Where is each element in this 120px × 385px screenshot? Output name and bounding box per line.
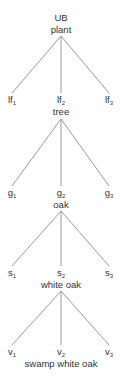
category-label-oak: oak — [53, 199, 68, 210]
node-s2: s2 — [57, 267, 65, 278]
edge-whiteoak-v3 — [61, 291, 109, 345]
root-label-ub: UB — [54, 12, 67, 23]
category-label-swamp-white-oak: swamp white oak — [25, 358, 98, 369]
root-label-plant: plant — [51, 24, 72, 35]
edge-oak-s1 — [12, 211, 61, 266]
category-label-tree: tree — [53, 106, 69, 117]
edge-plant-lf3 — [61, 36, 109, 93]
node-g3: g3 — [105, 187, 114, 198]
node-g2: g2 — [57, 187, 66, 198]
node-g1: g1 — [8, 187, 17, 198]
edge-tree-g3 — [61, 119, 109, 186]
node-v3: v3 — [105, 346, 113, 357]
node-lf2: lf2 — [57, 94, 65, 105]
edge-oak-s3 — [61, 211, 109, 266]
node-lf1: lf1 — [8, 94, 16, 105]
edge-tree-g1 — [12, 119, 61, 186]
edge-whiteoak-v1 — [12, 291, 61, 345]
edge-plant-lf1 — [12, 36, 61, 93]
category-label-white-oak: white oak — [41, 279, 81, 290]
node-s1: s1 — [8, 267, 16, 278]
node-v2: v2 — [57, 346, 65, 357]
node-v1: v1 — [8, 346, 16, 357]
node-s3: s3 — [105, 267, 113, 278]
node-lf3: lf3 — [105, 94, 113, 105]
